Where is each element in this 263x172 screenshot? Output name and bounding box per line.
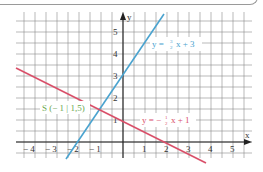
svg-text:1: 1	[142, 144, 147, 154]
blue-equation: y = 3 2 x + 3	[150, 37, 202, 51]
svg-text:S (− 1 | 1,5): S (− 1 | 1,5)	[42, 103, 85, 113]
svg-text:4: 4	[208, 144, 213, 154]
svg-text:2: 2	[113, 93, 118, 103]
svg-text:− 1: − 1	[89, 144, 101, 154]
x-tick-labels: − 4 − 3 − 2 − 1 1 2 3 4 5	[23, 144, 235, 154]
red-equation: y = − 1 2 x + 1	[140, 113, 196, 127]
svg-text:− 4: − 4	[23, 144, 35, 154]
svg-text:2: 2	[164, 144, 169, 154]
intersection-label: S (− 1 | 1,5)	[40, 101, 90, 114]
svg-text:− 3: − 3	[45, 144, 57, 154]
y-tick-labels: 1 2 3 4 5	[113, 27, 118, 125]
coordinate-graph: x y − 4 − 3 − 2 − 1 1 2 3 4 5 1 2 3 4 5 …	[0, 0, 263, 172]
svg-text:5: 5	[230, 144, 235, 154]
svg-text:y = −: y = −	[142, 115, 161, 125]
svg-text:y =: y =	[152, 39, 164, 49]
y-axis-arrow-icon	[120, 12, 126, 20]
y-axis-label: y	[127, 12, 132, 22]
svg-text:x + 1: x + 1	[171, 115, 190, 125]
svg-text:3: 3	[113, 71, 118, 81]
svg-text:5: 5	[113, 27, 118, 37]
x-axis-label: x	[245, 130, 250, 140]
svg-text:4: 4	[113, 49, 118, 59]
svg-text:x + 3: x + 3	[176, 39, 195, 49]
